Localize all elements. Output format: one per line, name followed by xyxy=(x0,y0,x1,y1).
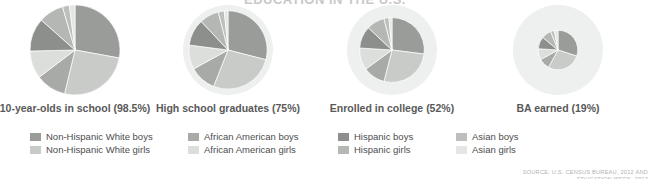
pie-wrap xyxy=(344,2,440,98)
legend-swatch-aa-boys xyxy=(188,133,199,141)
pie-chart-row: 10-year-olds in school (98.5%)High schoo… xyxy=(0,2,650,98)
legend-column-3: Hispanic boysHispanic girls xyxy=(338,131,456,157)
legend-swatch-nhwhite-girls xyxy=(30,146,41,154)
pie-slices xyxy=(344,2,440,98)
legend-item-asian-girls[interactable]: Asian girls xyxy=(456,144,566,155)
legend-item-aa-boys[interactable]: African American boys xyxy=(188,131,338,142)
pie-slices xyxy=(510,2,606,98)
pie-wrap xyxy=(27,2,123,98)
legend-item-asian-boys[interactable]: Asian boys xyxy=(456,131,566,142)
legend-swatch-hisp-girls xyxy=(338,146,349,154)
legend-column-2: African American boysAfrican American gi… xyxy=(188,131,338,157)
legend-item-nhwhite-boys[interactable]: Non-Hispanic White boys xyxy=(30,131,188,142)
pie-chart-4: BA earned (19%) xyxy=(478,2,638,98)
legend-swatch-asian-girls xyxy=(456,146,467,154)
legend-swatch-aa-girls xyxy=(188,146,199,154)
legend-label-asian-boys: Asian boys xyxy=(472,131,518,142)
legend-label-hisp-girls: Hispanic girls xyxy=(354,144,411,155)
legend-column-1: Non-Hispanic White boysNon-Hispanic Whit… xyxy=(30,131,188,157)
legend-item-nhwhite-girls[interactable]: Non-Hispanic White girls xyxy=(30,144,188,155)
legend-item-hisp-girls[interactable]: Hispanic girls xyxy=(338,144,456,155)
legend-label-aa-boys: African American boys xyxy=(204,131,299,142)
legend-label-aa-girls: African American girls xyxy=(204,144,296,155)
legend-label-nhwhite-boys: Non-Hispanic White boys xyxy=(46,131,153,142)
legend-swatch-hisp-boys xyxy=(338,133,349,141)
pie-label-4: BA earned (19%) xyxy=(458,102,650,114)
pie-wrap xyxy=(180,2,276,98)
legend-column-4: Asian boysAsian girls xyxy=(456,131,566,157)
legend-swatch-nhwhite-boys xyxy=(30,133,41,141)
infographic-root: EDUCATION IN THE U.S. 10-year-olds in sc… xyxy=(0,0,650,179)
pie-chart-1: 10-year-olds in school (98.5%) xyxy=(0,2,155,98)
pie-slice-non-hispanic-white-boys xyxy=(75,5,120,58)
source-note: SOURCE: U.S. CENSUS BUREAU, 2012 AND EDU… xyxy=(523,169,648,179)
pie-chart-3: Enrolled in college (52%) xyxy=(312,2,472,98)
pie-slices xyxy=(27,2,123,98)
legend-item-aa-girls[interactable]: African American girls xyxy=(188,144,338,155)
pie-slice-non-hispanic-white-boys xyxy=(392,18,424,54)
legend-label-nhwhite-girls: Non-Hispanic White girls xyxy=(46,144,150,155)
legend-swatch-asian-boys xyxy=(456,133,467,141)
pie-chart-2: High school graduates (75%) xyxy=(148,2,308,98)
pie-slices xyxy=(180,2,276,98)
legend-item-hisp-boys[interactable]: Hispanic boys xyxy=(338,131,456,142)
legend-label-hisp-boys: Hispanic boys xyxy=(354,131,413,142)
pie-wrap xyxy=(510,2,606,98)
source-line-2: EDUCATION WEEK, 2013 xyxy=(523,176,648,179)
source-line-1: SOURCE: U.S. CENSUS BUREAU, 2012 AND xyxy=(523,169,648,176)
legend-label-asian-girls: Asian girls xyxy=(472,144,516,155)
legend: Non-Hispanic White boysNon-Hispanic Whit… xyxy=(30,131,590,157)
